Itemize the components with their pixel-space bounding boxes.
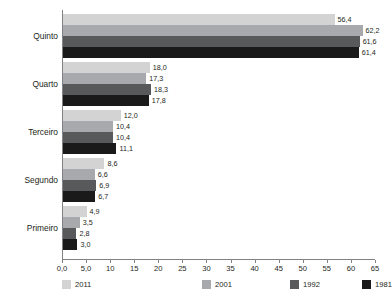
category-label-terceiro: Terceiro xyxy=(0,127,58,137)
bar xyxy=(63,73,146,84)
bar xyxy=(63,36,360,47)
bar-value-label: 17,3 xyxy=(146,73,163,84)
bar-value-label: 61,6 xyxy=(360,36,377,47)
chart-legend: 2011200119921981 xyxy=(62,280,382,294)
legend-swatch-icon xyxy=(362,280,371,289)
bar xyxy=(63,191,95,202)
category-label-primeiro: Primeiro xyxy=(0,223,58,233)
plot-area: 56,462,261,661,418,017,318,317,812,010,4… xyxy=(62,10,375,260)
bar xyxy=(63,158,104,169)
x-tick-label: 20 xyxy=(154,263,162,274)
bar-row: 2,8 xyxy=(63,228,375,239)
x-tick-label: 45 xyxy=(274,263,282,274)
bar-value-label: 3,0 xyxy=(77,239,90,250)
category-label-segundo: Segundo xyxy=(0,175,58,185)
bar-row: 62,2 xyxy=(63,25,375,36)
legend-label: 1981 xyxy=(375,280,392,289)
legend-item-1992[interactable]: 1992 xyxy=(290,280,320,289)
legend-label: 2011 xyxy=(75,280,91,289)
bar-value-label: 12,0 xyxy=(121,110,138,121)
bar-value-label: 17,8 xyxy=(149,95,166,106)
bar-row: 61,4 xyxy=(63,47,375,58)
x-tick-label: 35 xyxy=(226,263,234,274)
x-axis-ticks: 0,05,0101520253035404550556065 xyxy=(62,260,375,274)
x-tick-label: 15 xyxy=(130,263,138,274)
bar xyxy=(63,132,113,143)
legend-label: 1992 xyxy=(303,280,320,289)
bar-row: 17,3 xyxy=(63,73,375,84)
x-tick-label: 50 xyxy=(299,263,307,274)
legend-item-2001[interactable]: 2001 xyxy=(202,280,232,289)
bar-value-label: 10,4 xyxy=(113,132,130,143)
x-tick-label: 40 xyxy=(250,263,258,274)
legend-swatch-icon xyxy=(62,280,71,289)
bar xyxy=(63,84,151,95)
legend-swatch-icon xyxy=(202,280,211,289)
x-tick-label: 55 xyxy=(323,263,331,274)
bar xyxy=(63,110,121,121)
bar-row: 18,3 xyxy=(63,84,375,95)
x-tick-label: 0,0 xyxy=(57,263,68,274)
bar-row: 11,1 xyxy=(63,143,375,154)
bar-row: 3,0 xyxy=(63,239,375,250)
bar-value-label: 8,6 xyxy=(104,158,117,169)
bar-row: 6,7 xyxy=(63,191,375,202)
bar-row: 10,4 xyxy=(63,121,375,132)
bar-row: 12,0 xyxy=(63,110,375,121)
bar-value-label: 6,9 xyxy=(96,180,109,191)
bar xyxy=(63,239,77,250)
bar xyxy=(63,25,363,36)
legend-label: 2001 xyxy=(215,280,232,289)
legend-item-1981[interactable]: 1981 xyxy=(362,280,392,289)
bar-row: 4,9 xyxy=(63,206,375,217)
bar-value-label: 11,1 xyxy=(116,143,132,154)
bar-value-label: 18,3 xyxy=(151,84,168,95)
bar-row: 61,6 xyxy=(63,36,375,47)
bar-value-label: 62,2 xyxy=(363,25,380,36)
bar-value-label: 56,4 xyxy=(335,14,352,25)
bar-value-label: 18,0 xyxy=(150,62,167,73)
bar-value-label: 4,9 xyxy=(87,206,100,217)
bar xyxy=(63,62,150,73)
bar-group: 8,66,66,96,7 xyxy=(63,158,375,202)
bar-row: 18,0 xyxy=(63,62,375,73)
x-tick-label: 10 xyxy=(106,263,114,274)
x-tick-label: 65 xyxy=(371,263,379,274)
legend-swatch-icon xyxy=(290,280,299,289)
bar xyxy=(63,95,149,106)
bar xyxy=(63,217,80,228)
bar xyxy=(63,143,116,154)
category-label-quinto: Quinto xyxy=(0,31,58,41)
bar-row: 6,9 xyxy=(63,180,375,191)
bar-row: 17,8 xyxy=(63,95,375,106)
bar-value-label: 61,4 xyxy=(359,47,376,58)
bar-row: 3,5 xyxy=(63,217,375,228)
bar xyxy=(63,47,359,58)
bar xyxy=(63,121,113,132)
bar-row: 10,4 xyxy=(63,132,375,143)
bar-group: 12,010,410,411,1 xyxy=(63,110,375,154)
bar-row: 8,6 xyxy=(63,158,375,169)
bar-row: 56,4 xyxy=(63,14,375,25)
bar-group: 18,017,318,317,8 xyxy=(63,62,375,106)
bar-value-label: 3,5 xyxy=(80,217,93,228)
bar xyxy=(63,14,335,25)
bar-row: 6,6 xyxy=(63,169,375,180)
x-tick-label: 25 xyxy=(178,263,186,274)
x-tick-label: 60 xyxy=(347,263,355,274)
category-label-quarto: Quarto xyxy=(0,79,58,89)
bar-value-label: 2,8 xyxy=(76,228,89,239)
legend-item-2011[interactable]: 2011 xyxy=(62,280,91,289)
bar xyxy=(63,206,87,217)
bar xyxy=(63,228,76,239)
bar-value-label: 6,7 xyxy=(95,191,108,202)
bar-group: 4,93,52,83,0 xyxy=(63,206,375,250)
bar xyxy=(63,180,96,191)
x-tick-label: 30 xyxy=(202,263,210,274)
bar-value-label: 6,6 xyxy=(95,169,108,180)
bar-group: 56,462,261,661,4 xyxy=(63,14,375,58)
x-tick-label: 5,0 xyxy=(81,263,92,274)
bar-value-label: 10,4 xyxy=(113,121,130,132)
bar xyxy=(63,169,95,180)
